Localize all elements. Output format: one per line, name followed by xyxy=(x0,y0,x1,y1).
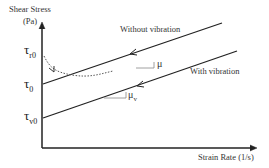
tau-r0-label: τr0 xyxy=(24,42,36,60)
tau-0-label: τ0 xyxy=(24,76,33,94)
label-without-vibration: Without vibration xyxy=(120,24,180,34)
tau-v0-label: τv0 xyxy=(24,108,37,126)
x-axis-label: Strain Rate (1/s) xyxy=(198,152,254,162)
slope-marker-mu xyxy=(136,62,154,68)
mu-label: μ xyxy=(157,58,162,69)
y-axis-label: Shear Stress xyxy=(9,4,51,14)
mu-v-label: μv xyxy=(128,89,137,103)
label-with-vibration: With vibration xyxy=(190,66,239,76)
y-axis-unit: (Pa) xyxy=(23,16,37,26)
line-with-vibration xyxy=(43,51,237,118)
